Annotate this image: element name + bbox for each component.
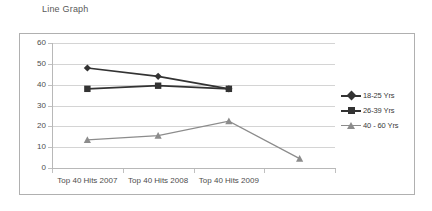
- legend-label: 18-25 Yrs: [361, 91, 394, 100]
- series-plot: [52, 43, 335, 169]
- triangle-marker: [296, 155, 303, 162]
- x-axis-tick: [264, 169, 265, 173]
- x-axis-tick: [123, 169, 124, 173]
- diamond-marker: [347, 90, 357, 100]
- y-axis-label: 30: [20, 102, 46, 110]
- y-axis-label: 10: [20, 143, 46, 151]
- series-line: [87, 121, 299, 159]
- legend-item[interactable]: 18-25 Yrs: [341, 88, 411, 103]
- triangle-marker: [225, 118, 232, 125]
- legend-item[interactable]: 26-39 Yrs: [341, 103, 411, 118]
- legend-label: 26-39 Yrs: [361, 106, 394, 115]
- x-axis-tick: [194, 169, 195, 173]
- y-axis-label: 20: [20, 122, 46, 130]
- x-axis-tick: [335, 169, 336, 173]
- square-marker: [226, 86, 232, 92]
- y-axis-label: 60: [20, 39, 46, 47]
- legend-key: [341, 90, 361, 102]
- square-marker: [348, 107, 355, 114]
- legend-key: [341, 120, 361, 132]
- chart-legend: 18-25 Yrs26-39 Yrs40 - 60 Yrs: [341, 88, 411, 133]
- x-axis-label: Top 40 Hits 2009: [194, 176, 265, 185]
- line-graph-screenshot: Line Graph 0102030405060 Top 40 Hits 200…: [0, 0, 432, 211]
- x-axis-tick: [52, 169, 53, 173]
- y-axis-label: 50: [20, 60, 46, 68]
- square-marker: [84, 86, 90, 92]
- x-axis-label: Top 40 Hits 2007: [52, 176, 123, 185]
- legend-item[interactable]: 40 - 60 Yrs: [341, 118, 411, 133]
- legend-label: 40 - 60 Yrs: [361, 121, 398, 130]
- y-axis-label: 40: [20, 81, 46, 89]
- x-axis-label: Top 40 Hits 2008: [123, 176, 194, 185]
- triangle-marker: [347, 122, 355, 129]
- legend-key: [341, 105, 361, 117]
- page-title: Line Graph: [42, 4, 89, 14]
- diamond-marker: [155, 73, 162, 80]
- y-axis-label: 0: [20, 164, 46, 172]
- square-marker: [155, 83, 161, 89]
- diamond-marker: [84, 64, 91, 71]
